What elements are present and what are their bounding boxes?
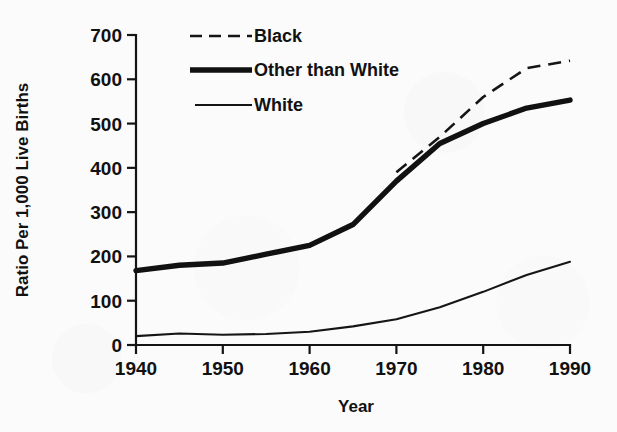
legend-label-black: Black bbox=[254, 26, 303, 46]
legend-label-other-than-white: Other than White bbox=[254, 60, 399, 80]
line-chart-canvas: 0100200300400500600700 19401950196019701… bbox=[0, 0, 617, 432]
legend-item-other-than-white: Other than White bbox=[190, 60, 399, 80]
x-tick-label: 1960 bbox=[288, 358, 330, 379]
x-tick-label: 1990 bbox=[549, 358, 591, 379]
y-tick-label: 600 bbox=[90, 69, 122, 90]
series-line-other-than-white bbox=[136, 100, 570, 271]
legend-item-black: Black bbox=[190, 26, 303, 46]
x-axis-ticks: 194019501960197019801990 bbox=[115, 345, 591, 379]
x-tick-label: 1970 bbox=[375, 358, 417, 379]
chart-figure: 0100200300400500600700 19401950196019701… bbox=[0, 0, 617, 432]
y-tick-label: 700 bbox=[90, 25, 122, 46]
series-line-white bbox=[136, 262, 570, 336]
y-axis-ticks: 0100200300400500600700 bbox=[90, 25, 136, 356]
y-tick-label: 200 bbox=[90, 246, 122, 267]
y-tick-label: 0 bbox=[111, 335, 122, 356]
chart-legend: Black Other than White White bbox=[190, 26, 399, 115]
x-tick-label: 1950 bbox=[202, 358, 244, 379]
y-tick-label: 400 bbox=[90, 158, 122, 179]
y-axis-title: Ratio Per 1,000 Live Births bbox=[13, 83, 32, 297]
legend-item-white: White bbox=[195, 95, 303, 115]
x-axis-title: Year bbox=[338, 397, 374, 416]
legend-label-white: White bbox=[254, 95, 303, 115]
x-tick-label: 1940 bbox=[115, 358, 157, 379]
chart-series-group bbox=[136, 61, 570, 336]
x-tick-label: 1980 bbox=[462, 358, 504, 379]
y-tick-label: 500 bbox=[90, 114, 122, 135]
y-tick-label: 100 bbox=[90, 291, 122, 312]
y-tick-label: 300 bbox=[90, 202, 122, 223]
